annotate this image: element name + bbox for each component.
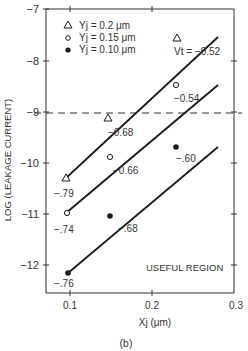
filled-circle-marker bbox=[173, 144, 179, 150]
y-tick-label: −8 bbox=[26, 55, 39, 67]
series-line-yj-0.10 bbox=[68, 147, 218, 273]
x-tick-label: 0.3 bbox=[229, 300, 243, 311]
legend-label: Yj = 0.10 μm bbox=[79, 44, 136, 55]
filled-circle-marker bbox=[65, 270, 71, 276]
y-tick-label: −11 bbox=[21, 208, 39, 220]
series-line-yj-0.15 bbox=[66, 85, 218, 213]
vt-label: −.79 bbox=[54, 188, 74, 199]
vt-label: −.76 bbox=[54, 278, 74, 289]
open-circle-marker bbox=[64, 210, 69, 215]
vt-label: −0.68 bbox=[108, 127, 134, 138]
y-tick-label: −12 bbox=[20, 259, 39, 271]
open-circle-marker bbox=[107, 154, 112, 159]
triangle-marker bbox=[104, 114, 112, 121]
vt-label: −0.54 bbox=[174, 93, 200, 104]
vt-label: −.60 bbox=[176, 153, 196, 164]
x-tick-label: 0.2 bbox=[145, 300, 159, 311]
vt-label: −.68 bbox=[118, 223, 138, 234]
useful-region-label: USEFUL REGION bbox=[146, 262, 223, 273]
legend-open-circle-icon bbox=[66, 36, 71, 41]
vt-label: Vt = −0.52 bbox=[174, 46, 221, 57]
series-markers-triangle bbox=[62, 34, 181, 181]
vt-labels: −.79 −0.68 Vt = −0.52 −.74 −0.66 −0.54 −… bbox=[54, 46, 221, 289]
x-tick-labels: 0.1 0.2 0.3 bbox=[63, 300, 243, 311]
legend-label: Yj = 0.2 μm bbox=[79, 20, 130, 31]
panel-label: (b) bbox=[120, 337, 133, 349]
y-axis-title: LOG (LEAKAGE CURRENT) bbox=[2, 99, 13, 221]
legend-filled-circle-icon bbox=[65, 47, 70, 52]
y-tick-labels: −7 −8 −9 −10 −11 −12 bbox=[20, 3, 39, 271]
legend-label: Yj = 0.15 μm bbox=[79, 32, 136, 43]
x-axis-title: Xj (μm) bbox=[139, 317, 171, 328]
legend: Yj = 0.2 μm Yj = 0.15 μm Yj = 0.10 μm bbox=[64, 20, 136, 55]
open-circle-marker bbox=[173, 82, 178, 87]
vt-label: −0.66 bbox=[113, 165, 139, 176]
filled-circle-marker bbox=[107, 213, 113, 219]
legend-triangle-icon bbox=[64, 21, 72, 28]
y-tick-label: −10 bbox=[20, 157, 39, 169]
y-tick-label: −7 bbox=[26, 3, 39, 15]
triangle-marker bbox=[173, 34, 181, 41]
y-tick-label: −9 bbox=[26, 106, 39, 118]
x-tick-label: 0.1 bbox=[63, 300, 77, 311]
vt-label: −.74 bbox=[54, 224, 74, 235]
chart-canvas: −7 −8 −9 −10 −11 −12 0.1 0.2 0.3 LOG (LE… bbox=[0, 0, 248, 351]
